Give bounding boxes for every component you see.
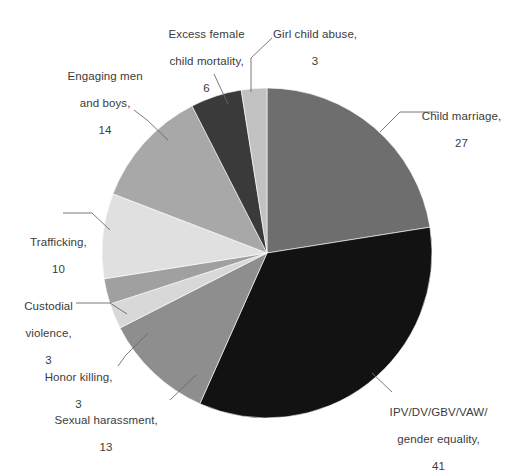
label-value: 10 bbox=[52, 263, 65, 275]
label-line: Excess female bbox=[169, 28, 245, 40]
label-girl-child-abuse: Girl child abuse, 3 bbox=[251, 14, 366, 82]
label-value: 6 bbox=[203, 82, 210, 94]
label-line: child mortality, bbox=[169, 55, 243, 67]
label-value: 27 bbox=[455, 137, 468, 149]
label-child-marriage: Child marriage, 27 bbox=[405, 96, 505, 164]
label-line: and boys, bbox=[80, 97, 131, 109]
label-value: 14 bbox=[99, 124, 112, 136]
label-ipv-dv-gbv-vaw: IPV/DV/GBV/VAW/ gender equality, 41 bbox=[362, 392, 502, 474]
label-line: violence, bbox=[25, 327, 71, 339]
label-sexual-harassment: Sexual harassment, 13 bbox=[32, 400, 167, 468]
label-line: Girl child abuse, bbox=[273, 28, 357, 40]
label-excess-female-child-mortality: Excess female child mortality, 6 bbox=[140, 14, 260, 109]
label-line: Child marriage, bbox=[422, 110, 501, 122]
label-value: 13 bbox=[100, 441, 113, 453]
label-line: Honor killing, bbox=[45, 371, 113, 383]
label-line: Custodial bbox=[24, 300, 73, 312]
label-engaging-men-and-boys: Engaging men and boys, 14 bbox=[46, 56, 151, 151]
label-value: 3 bbox=[312, 55, 319, 67]
label-line: gender equality, bbox=[397, 433, 480, 445]
label-trafficking: Trafficking, 10 bbox=[6, 222, 98, 290]
pie-slices-group bbox=[102, 88, 432, 418]
label-line: Engaging men bbox=[67, 70, 142, 82]
leader-line-ipv bbox=[372, 373, 392, 392]
label-line: Trafficking, bbox=[30, 236, 87, 248]
label-line: IPV/DV/GBV/VAW/ bbox=[390, 406, 488, 418]
label-value: 41 bbox=[432, 460, 445, 472]
label-line: Sexual harassment, bbox=[54, 414, 157, 426]
